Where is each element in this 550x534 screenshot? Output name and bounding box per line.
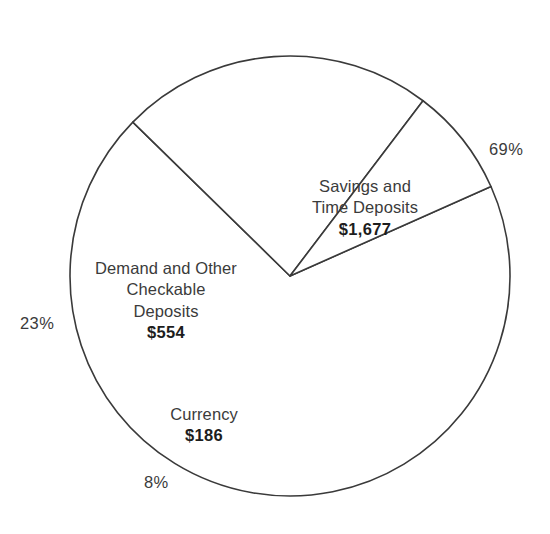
demand-value: $554 bbox=[72, 322, 260, 343]
savings-label-line1: Savings and bbox=[270, 176, 460, 197]
demand-label-line3: Deposits bbox=[72, 301, 260, 322]
demand-label-line2: Checkable bbox=[72, 279, 260, 300]
pie-label-currency: Currency $186 bbox=[145, 404, 263, 447]
pie-percent-savings-and-time-deposits: 69% bbox=[489, 139, 523, 160]
currency-value: $186 bbox=[145, 425, 263, 446]
pie-percent-demand-and-other-checkable-deposits: 23% bbox=[20, 313, 54, 334]
savings-label-line2: Time Deposits bbox=[270, 197, 460, 218]
pie-percent-currency: 8% bbox=[144, 472, 169, 493]
pie-label-savings-and-time-deposits: Savings and Time Deposits $1,677 bbox=[270, 176, 460, 240]
pie-label-demand-and-other-checkable-deposits: Demand and Other Checkable Deposits $554 bbox=[72, 258, 260, 344]
demand-label-line1: Demand and Other bbox=[72, 258, 260, 279]
currency-label-line1: Currency bbox=[145, 404, 263, 425]
savings-value: $1,677 bbox=[270, 219, 460, 240]
pie-chart-figure: Savings and Time Deposits $1,677 Demand … bbox=[0, 0, 550, 534]
